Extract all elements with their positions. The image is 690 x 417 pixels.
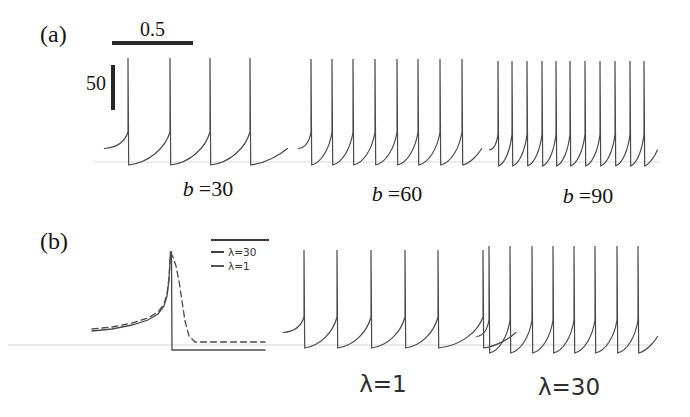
- time-scale-value: 0.5: [112, 18, 193, 40]
- time-scale-bar: [112, 41, 193, 45]
- legend-entry-lambda1: λ=1: [211, 259, 269, 273]
- voltage-scale-bar: [111, 65, 115, 110]
- spike-train-figure: (a) 0.5 50 b=30 b=60 b=90 (b) λ=30 λ=1 λ…: [0, 0, 690, 417]
- legend-label-lambda30: λ=30: [228, 246, 256, 258]
- train-b30-val: =30: [199, 176, 233, 201]
- train-b30-var: b: [183, 176, 199, 201]
- panel-b-label: (b): [40, 228, 68, 254]
- voltage-scale-value: 50: [72, 72, 106, 94]
- legend-entry-lambda30: λ=30: [211, 245, 269, 259]
- train-label-lambda30: λ=30: [521, 375, 617, 400]
- train-b90-val: =90: [579, 183, 613, 208]
- legend-line-icon-lambda1: [211, 265, 224, 268]
- train-label-b30: b=30: [163, 177, 253, 201]
- train-b90-var: b: [563, 183, 579, 208]
- panel-a-label: (a): [40, 21, 67, 47]
- train-b60-var: b: [372, 181, 388, 206]
- train-label-lambda1: λ=1: [335, 372, 431, 397]
- train-b60-val: =60: [388, 181, 422, 206]
- traces-canvas: [0, 0, 690, 417]
- train-label-b90: b=90: [543, 184, 633, 208]
- legend-label-lambda1: λ=1: [228, 260, 250, 272]
- legend-line-icon-lambda30: [211, 251, 224, 254]
- inset-legend: λ=30 λ=1: [211, 239, 269, 273]
- train-label-b60: b=60: [352, 182, 442, 206]
- legend-rule: [211, 239, 269, 241]
